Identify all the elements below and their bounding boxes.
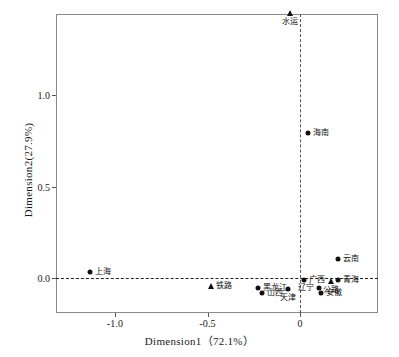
triangle-marker-icon: [328, 278, 334, 284]
data-point-circle: [335, 278, 340, 283]
data-point-triangle: [287, 10, 293, 16]
data-point-label: 辽宁: [298, 284, 314, 292]
data-point-circle: [260, 290, 265, 295]
data-point-circle: [305, 130, 310, 135]
circle-marker-icon: [260, 290, 265, 295]
reference-line-vertical: [300, 14, 301, 313]
data-point-label: 上海: [95, 268, 111, 276]
data-point-label: 铁路: [216, 282, 232, 290]
y-tick-mark: [52, 278, 56, 279]
circle-marker-icon: [88, 269, 93, 274]
y-axis-title: Dimension2(27.9%): [22, 80, 34, 260]
data-point-label: 天津: [280, 294, 296, 302]
data-point-circle: [88, 269, 93, 274]
x-tick-label: 0: [297, 318, 302, 329]
data-point-label: 海南: [313, 129, 329, 137]
circle-marker-icon: [285, 287, 290, 292]
circle-marker-icon: [335, 278, 340, 283]
x-axis-title: Dimension1（72.1%）: [0, 332, 399, 348]
circle-marker-icon: [335, 257, 340, 262]
circle-marker-icon: [302, 278, 307, 283]
data-point-label: 公路: [323, 286, 339, 294]
triangle-marker-icon: [208, 283, 214, 289]
data-point-triangle: [328, 278, 334, 284]
x-tick-mark: [300, 313, 301, 317]
data-point-label: 青海: [343, 276, 359, 284]
data-point-circle: [302, 278, 307, 283]
data-point-triangle: [208, 283, 214, 289]
data-point-circle: [335, 257, 340, 262]
x-tick-mark: [208, 313, 209, 317]
y-tick-mark: [52, 95, 56, 96]
scatter-plot: -1.0-0.500.00.51.0 上海黑龙江山西天津广西辽宁安徽青海云南海南…: [0, 0, 399, 357]
data-point-circle: [285, 287, 290, 292]
x-tick-label: -0.5: [199, 318, 216, 329]
circle-marker-icon: [305, 130, 310, 135]
data-point-label: 云南: [343, 255, 359, 263]
triangle-marker-icon: [287, 10, 293, 16]
x-tick-mark: [115, 313, 116, 317]
data-point-label: 水运: [282, 18, 298, 26]
y-tick-label: 0.0: [18, 273, 50, 284]
x-tick-label: -1.0: [107, 318, 124, 329]
y-tick-mark: [52, 187, 56, 188]
